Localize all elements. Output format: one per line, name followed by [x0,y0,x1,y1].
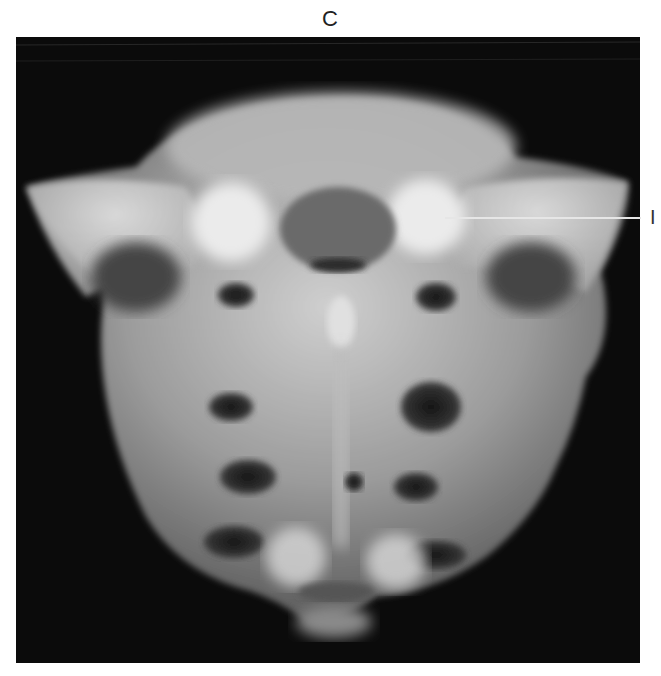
annotation-leader-line [445,217,641,219]
panel-label: C [0,6,661,32]
annotation-label-i: I [650,206,656,229]
sacrum-radiograph [16,37,640,663]
sacrum-illustration [16,37,640,663]
